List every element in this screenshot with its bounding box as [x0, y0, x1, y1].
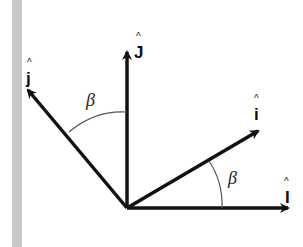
label-J: J — [134, 43, 143, 62]
angle-arc-upper — [69, 112, 127, 132]
vector-j-rotated — [28, 90, 127, 208]
angle-arc-lower — [209, 161, 222, 208]
hat-i: ^ — [254, 93, 259, 104]
hat-j: ^ — [27, 57, 32, 68]
rotated-frame-diagram: ^ J ^ j ^ i ^ I β β — [0, 0, 303, 247]
angle-label-upper: β — [85, 90, 95, 110]
label-i: i — [254, 105, 259, 124]
vector-i-rotated — [127, 131, 258, 208]
label-I: I — [285, 188, 290, 207]
label-j: j — [25, 69, 31, 88]
hat-J: ^ — [136, 31, 141, 42]
hat-I: ^ — [284, 176, 289, 187]
angle-label-lower: β — [227, 168, 237, 188]
